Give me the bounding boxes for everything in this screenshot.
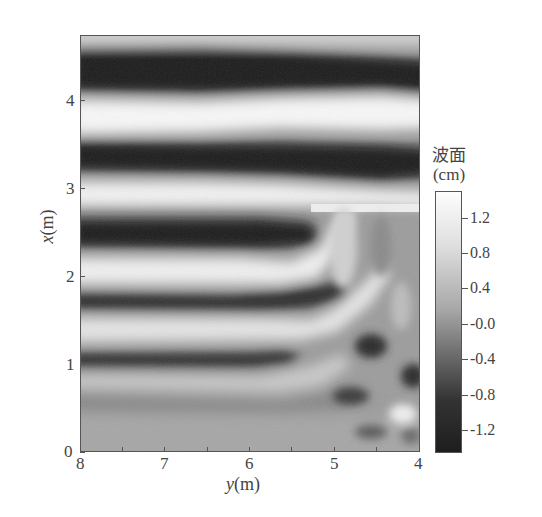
xtick-minor xyxy=(207,447,208,452)
xtick-label: 4 xyxy=(414,455,423,472)
colorbar-tick xyxy=(462,324,468,325)
colorbar-tick xyxy=(462,359,468,360)
xtick-minor xyxy=(122,447,123,452)
xtick-label: 7 xyxy=(160,455,169,472)
ytick-label: 3 xyxy=(66,180,75,197)
y-axis-var: x xyxy=(37,236,57,244)
colorbar-title: 波面 (cm) xyxy=(418,146,480,184)
xtick-7 xyxy=(164,447,165,452)
colorbar-tick xyxy=(462,218,468,219)
y-axis-label: x(m) xyxy=(37,202,58,252)
colorbar-label: -1.2 xyxy=(470,422,495,438)
ytick-label: 4 xyxy=(66,92,75,109)
colorbar xyxy=(435,191,462,453)
ytick-label: 0 xyxy=(64,443,73,460)
colorbar-tick xyxy=(462,430,468,431)
colorbar-label: 1.2 xyxy=(470,210,490,226)
colorbar-label: -0.8 xyxy=(470,387,495,403)
colorbar-tick xyxy=(462,395,468,396)
wave-field-image xyxy=(81,36,420,452)
colorbar-title-line1: 波面 xyxy=(418,146,480,165)
ytick-0 xyxy=(80,452,85,453)
colorbar-label: 0.4 xyxy=(470,280,490,296)
xtick-minor xyxy=(376,447,377,452)
ytick-2 xyxy=(80,276,85,277)
colorbar-label: -0.4 xyxy=(470,351,495,367)
colorbar-title-line2: (cm) xyxy=(418,165,480,184)
colorbar-tick xyxy=(462,288,468,289)
ytick-3 xyxy=(80,188,85,189)
xtick-5 xyxy=(334,447,335,452)
xtick-label: 6 xyxy=(245,455,254,472)
x-axis-label: y(m) xyxy=(226,474,260,495)
ytick-label: 2 xyxy=(66,268,75,285)
colorbar-label: 0.8 xyxy=(470,245,490,261)
xtick-6 xyxy=(249,447,250,452)
ytick-1 xyxy=(80,364,85,365)
ytick-label: 1 xyxy=(66,356,75,373)
colorbar-label: -0.0 xyxy=(470,316,495,332)
xtick-label: 5 xyxy=(330,455,339,472)
x-axis-var: y xyxy=(226,474,234,494)
colorbar-tick xyxy=(462,253,468,254)
heatmap-plot-area xyxy=(80,35,420,452)
xtick-label: 8 xyxy=(76,455,85,472)
ytick-4 xyxy=(80,100,85,101)
xtick-minor xyxy=(291,447,292,452)
x-axis-unit: (m) xyxy=(234,474,260,494)
y-axis-unit: (m) xyxy=(37,210,57,236)
